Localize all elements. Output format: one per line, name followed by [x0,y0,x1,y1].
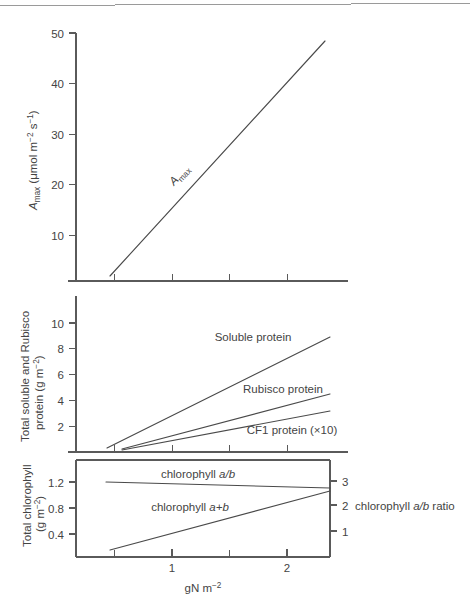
bottom-y2label-2: 2 [342,500,348,512]
top-ylabel-30: 30 [51,129,64,141]
bottom-ylabel-0p4: 0.4 [48,529,65,541]
bottom-ylabel-0p8: 0.8 [48,503,64,515]
series-annotation-chlorophyll-ab: chlorophyll a/b [161,468,236,480]
series-line-amax [110,41,325,276]
middle-ylabel-10: 10 [51,318,64,330]
top-y-axis-title: Amax (μmol m−2 s−1) [26,110,42,211]
page-scan-rule-top [0,4,470,6]
series-line-chlorophyll-a-plus-b [110,491,330,550]
bottom-y-axis-title-line2: (g m−2) [33,496,46,532]
top-ylabel-20: 20 [51,179,64,191]
series-line-rubisco-protein [122,394,330,449]
bottom-ylabel-1p2: 1.2 [48,477,64,489]
middle-ylabel-4: 4 [58,395,65,407]
top-ylabel-40: 40 [51,78,64,90]
bottom-y2label-1: 1 [342,526,348,538]
x-axis-title: gN m−2 [185,581,222,594]
top-ylabel-10: 10 [51,230,64,242]
bottom-xlabel-2: 2 [284,562,290,574]
top-ylabel-50: 50 [51,28,64,40]
middle-ylabel-8: 8 [58,343,64,355]
bottom-y2-axis-title: chlorophyll a/b ratio [355,500,455,512]
series-annotation-chlorophyll-a-plus-b: chlorophyll a+b [151,501,229,513]
series-annotation-cf1-protein: CF1 protein (×10) [247,424,338,436]
panel-bottom-chlorophyll: 1.2 0.8 0.4 3 2 1 1 2 Total chlorophyll … [21,460,455,574]
figure-root: 50 40 30 20 10 Amax (μmol m−2 s−1) Amax … [0,0,470,616]
series-line-chlorophyll-ab-ratio [106,482,330,488]
panel-top-amax: 50 40 30 20 10 Amax (μmol m−2 s−1) Amax [26,28,348,282]
series-annotation-rubisco-protein: Rubisco protein [243,383,323,395]
panel-middle-protein: 10 8 6 4 2 Total soluble and Rubisco pro… [19,296,348,452]
series-annotation-amax: Amax [166,162,193,190]
middle-ylabel-6: 6 [58,369,64,381]
bottom-y-axis-title-line1: Total chlorophyll [21,465,33,547]
middle-y-axis-title-line1: Total soluble and Rubisco [19,311,31,442]
bottom-y2label-3: 3 [342,476,348,488]
middle-y-axis-title-line2: protein (g m−2) [32,355,45,430]
middle-ylabel-2: 2 [58,421,64,433]
three-panel-nitrogen-figure: 50 40 30 20 10 Amax (μmol m−2 s−1) Amax … [0,0,470,616]
series-annotation-soluble-protein: Soluble protein [215,331,292,343]
bottom-xlabel-1: 1 [169,562,175,574]
